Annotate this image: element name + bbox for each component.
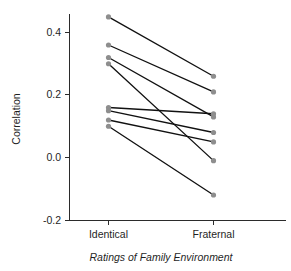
data-point-7-left: [106, 117, 111, 122]
x-axis-title: Ratings of Family Environment: [90, 251, 234, 263]
series-line-6: [109, 111, 214, 133]
data-point-6-right: [211, 130, 216, 135]
data-point-3-left: [106, 55, 111, 60]
series-line-2: [109, 45, 214, 92]
data-point-1-right: [211, 74, 216, 79]
y-axis-title: Correlation: [10, 93, 22, 145]
slope-chart-svg: 0.4 0.2 0.0 -0.2 Correlation Identical F…: [0, 0, 291, 271]
data-point-8-left: [106, 124, 111, 129]
data-point-6-left: [106, 108, 111, 113]
series-layer: [106, 14, 216, 197]
data-point-2-left: [106, 42, 111, 47]
data-point-1-left: [106, 14, 111, 19]
data-point-7-right: [211, 139, 216, 144]
chart-figure: 0.4 0.2 0.0 -0.2 Correlation Identical F…: [0, 0, 291, 271]
data-point-4-right: [211, 158, 216, 163]
y-tick-label-2: 0.0: [46, 151, 61, 163]
data-point-8-right: [211, 192, 216, 197]
y-tick-label-3: -0.2: [43, 214, 61, 226]
data-point-4-left: [106, 61, 111, 66]
y-tick-label-1: 0.2: [46, 88, 61, 100]
series-line-8: [109, 126, 214, 195]
data-point-2-right: [211, 89, 216, 94]
data-point-5-right: [211, 111, 216, 116]
x-tick-label-identical: Identical: [89, 228, 128, 240]
series-line-1: [109, 17, 214, 76]
y-tick-label-0: 0.4: [46, 26, 61, 38]
series-line-7: [109, 120, 214, 142]
x-tick-label-fraternal: Fraternal: [192, 228, 234, 240]
